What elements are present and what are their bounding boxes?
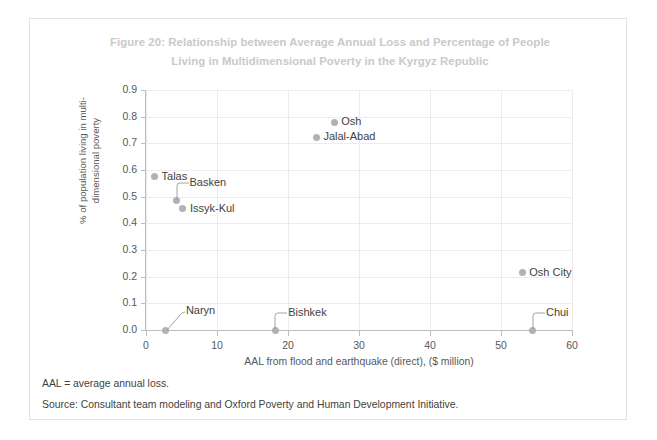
data-point-label: Chui: [546, 306, 569, 318]
y-tick-label: 0.3: [107, 243, 137, 255]
x-axis-title: AAL from flood and earthquake (direct), …: [146, 356, 572, 367]
data-point[interactable]: [529, 327, 536, 334]
y-axis-title: % of population living in multi- dimensi…: [77, 41, 102, 281]
x-tick-label: 10: [197, 339, 237, 351]
gridline-vertical: [572, 90, 573, 330]
data-point-label: Osh City: [529, 266, 571, 278]
x-tick-mark: [501, 331, 502, 336]
y-tick-label: 0.4: [107, 216, 137, 228]
x-tick-label: 60: [552, 339, 592, 351]
y-tick-label: 0.7: [107, 136, 137, 148]
x-tick-label: 30: [339, 339, 379, 351]
data-point-label: Jalal-Abad: [323, 130, 375, 142]
x-tick-mark: [217, 331, 218, 336]
x-tick-mark: [572, 331, 573, 336]
y-tick-label: 0.1: [107, 296, 137, 308]
y-tick-label: 0.0: [107, 323, 137, 335]
data-point-label: Talas: [162, 170, 188, 182]
footnote-source: Source: Consultant team modeling and Oxf…: [42, 399, 458, 410]
y-axis-title-line-1: % of population living in multi-: [77, 97, 88, 224]
data-point[interactable]: [272, 327, 279, 334]
x-tick-label: 40: [410, 339, 450, 351]
footnote-abbreviation: AAL = average annual loss.: [42, 378, 169, 389]
data-point-label: Osh: [341, 115, 361, 127]
data-point[interactable]: [151, 173, 158, 180]
data-point[interactable]: [313, 134, 320, 141]
x-tick-label: 0: [126, 339, 166, 351]
data-point-label: Basken: [190, 176, 227, 188]
x-tick-mark: [359, 331, 360, 336]
data-point[interactable]: [179, 205, 186, 212]
y-axis-title-line-2: dimensional poverty: [89, 118, 100, 203]
y-tick-label: 0.5: [107, 190, 137, 202]
data-point-label: Naryn: [186, 304, 215, 316]
data-point[interactable]: [331, 119, 338, 126]
scatter-plot: 0.00.10.20.30.40.50.60.70.80.9 010203040…: [0, 0, 657, 440]
data-point-label: Bishkek: [288, 306, 327, 318]
data-series-layer: OshJalal-AbadTalasBaskenIssyk-KulOsh Cit…: [146, 90, 572, 330]
data-point-label: Issyk-Kul: [190, 202, 235, 214]
x-tick-mark: [288, 331, 289, 336]
y-tick-label: 0.6: [107, 163, 137, 175]
data-point[interactable]: [519, 269, 526, 276]
x-tick-label: 20: [268, 339, 308, 351]
y-tick-label: 0.8: [107, 110, 137, 122]
y-tick-label: 0.2: [107, 270, 137, 282]
x-tick-label: 50: [481, 339, 521, 351]
y-tick-label: 0.9: [107, 83, 137, 95]
data-point[interactable]: [162, 327, 169, 334]
data-point[interactable]: [173, 197, 180, 204]
x-tick-mark: [430, 331, 431, 336]
x-tick-mark: [146, 331, 147, 336]
